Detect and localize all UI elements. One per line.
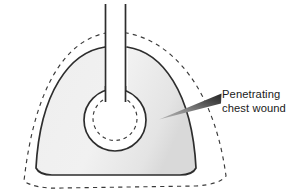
callout-label-line-2: chest wound [222, 102, 296, 116]
callout-label-line-1: Penetrating [222, 88, 296, 102]
callout-label: Penetrating chest wound [222, 88, 296, 115]
figure-root: Penetrating chest wound [0, 0, 296, 196]
